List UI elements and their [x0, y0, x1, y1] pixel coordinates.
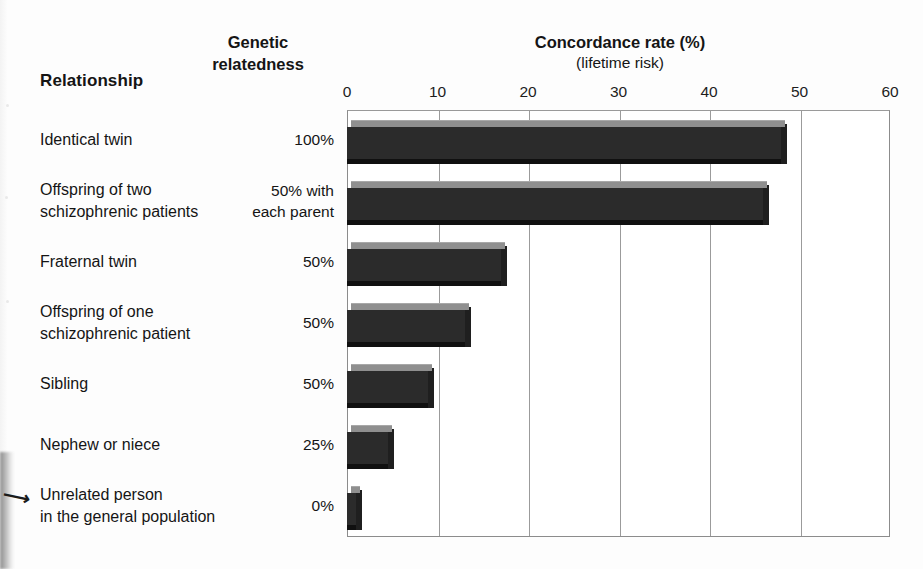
bar-face [347, 432, 388, 469]
bar [347, 181, 769, 225]
bar-top-face [351, 364, 432, 371]
x-tick-label-50: 50 [791, 83, 808, 101]
gridline-40 [710, 111, 711, 536]
chart-subtitle: (lifetime risk) [430, 53, 810, 73]
bar-side-face [356, 490, 362, 530]
bar-face [347, 310, 465, 347]
x-tick-label-30: 30 [610, 83, 627, 101]
chart-figure: ⟶ Relationship Genetic relatedness Conco… [0, 0, 923, 569]
bar [347, 242, 507, 286]
bar-top-face [351, 181, 767, 188]
header-genetic-relatedness: Genetic relatedness [182, 31, 334, 75]
relationship-label: Fraternal twin [40, 251, 137, 273]
genetic-relatedness-value: 50% [174, 373, 334, 394]
scan-fleck-artifact [6, 300, 9, 303]
genetic-relatedness-value: 100% [174, 129, 334, 150]
bar-top-face [351, 486, 360, 493]
scan-fleck-artifact [5, 196, 8, 199]
header-concordance-rate: Concordance rate (%) (lifetime risk) [430, 31, 810, 73]
x-tick-label-10: 10 [429, 83, 446, 101]
gridline-30 [620, 111, 621, 536]
genetic-relatedness-value: 50% [174, 251, 334, 272]
x-tick-label-60: 60 [881, 83, 898, 101]
bar-face [347, 127, 781, 164]
bar [347, 120, 787, 164]
bar-side-face [501, 246, 507, 286]
genetic-relatedness-value: 0% [174, 495, 334, 516]
bar-face [347, 188, 763, 225]
bar-top-face [351, 425, 392, 432]
bar-top-face [351, 120, 785, 127]
genetic-relatedness-value: 50% [174, 312, 334, 333]
bar-face [347, 249, 501, 286]
genetic-relatedness-value: 50% with each parent [174, 180, 334, 222]
bar [347, 364, 434, 408]
scan-pen-mark-artifact: ⟶ [2, 487, 23, 504]
relationship-label: Identical twin [40, 129, 133, 151]
bar-side-face [763, 185, 769, 225]
bar [347, 486, 362, 530]
bar-top-face [351, 242, 505, 249]
scan-binding-smudge-artifact [0, 452, 14, 569]
relationship-label: Offspring of one schizophrenic patient [40, 301, 190, 345]
x-tick-label-20: 20 [519, 83, 536, 101]
x-tick-label-40: 40 [700, 83, 717, 101]
bar-face [347, 371, 428, 408]
gridline-20 [529, 111, 530, 536]
genetic-relatedness-value: 25% [174, 434, 334, 455]
scan-fleck-artifact [6, 104, 9, 107]
bar [347, 425, 394, 469]
relationship-label: Sibling [40, 373, 88, 395]
bar-side-face [781, 124, 787, 164]
bar-side-face [428, 368, 434, 408]
x-tick-label-0: 0 [343, 83, 352, 101]
gridline-50 [801, 111, 802, 536]
bar-face [347, 493, 356, 530]
bar-top-face [351, 303, 469, 310]
relationship-label: Nephew or niece [40, 434, 160, 456]
chart-title: Concordance rate (%) [535, 33, 706, 51]
bar [347, 303, 471, 347]
bar-side-face [388, 429, 394, 469]
bar-side-face [465, 307, 471, 347]
header-relationship: Relationship [40, 71, 143, 91]
